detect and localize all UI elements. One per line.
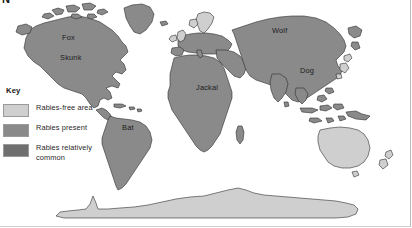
map-legend: Key Rabies-free area Rabies present Rabi… <box>3 86 99 168</box>
legend-item-rabies-free: Rabies-free area <box>3 103 99 117</box>
legend-item-rabies-present: Rabies present <box>3 123 99 137</box>
legend-heading: Key <box>6 86 99 95</box>
legend-label-rabies-free: Rabies-free area <box>36 103 93 113</box>
region-british-isles <box>169 30 186 42</box>
region-new-zealand <box>379 150 393 169</box>
legend-label-rabies-common: Rabies relatively common <box>36 143 99 162</box>
legend-swatch-rabies-present <box>3 124 29 137</box>
map-label-bat: Bat <box>122 123 134 132</box>
region-scandinavia <box>189 12 214 33</box>
legend-label-rabies-present: Rabies present <box>36 123 87 133</box>
rabies-world-map-figure: N <box>0 0 412 228</box>
map-label-jackal: Jackal <box>196 83 218 92</box>
legend-swatch-rabies-free <box>3 104 29 117</box>
region-antarctica <box>56 188 358 218</box>
map-label-skunk: Skunk <box>60 53 82 62</box>
map-label-wolf: Wolf <box>272 26 288 35</box>
map-label-dog: Dog <box>300 66 314 75</box>
legend-item-rabies-common: Rabies relatively common <box>3 143 99 162</box>
legend-swatch-rabies-common <box>3 144 29 157</box>
map-label-fox: Fox <box>62 33 75 42</box>
region-australia <box>318 127 370 177</box>
region-greenland <box>124 4 168 34</box>
